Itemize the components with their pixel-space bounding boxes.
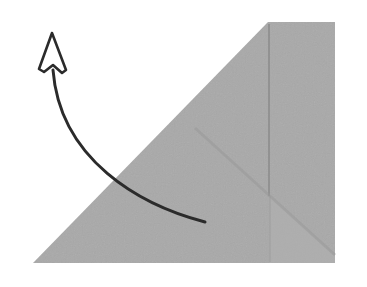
diagram-canvas: [0, 0, 367, 287]
fold-arrow-head-icon: [39, 33, 66, 73]
origami-diagram: [0, 0, 367, 287]
